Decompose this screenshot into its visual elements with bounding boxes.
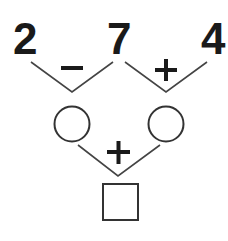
plus-operator-bottom-icon [107, 141, 130, 164]
number-7: 7 [107, 14, 131, 63]
left-answer-circle[interactable] [55, 107, 90, 142]
number-4: 4 [201, 14, 226, 63]
right-answer-circle[interactable] [149, 107, 184, 142]
number-2: 2 [13, 14, 37, 63]
result-answer-square[interactable] [103, 184, 138, 220]
plus-operator-right-icon [155, 59, 177, 81]
arithmetic-tree-diagram: 2 7 4 [0, 0, 228, 241]
